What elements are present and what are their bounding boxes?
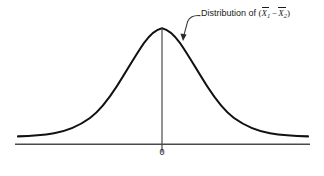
annotation-close-paren: ) xyxy=(287,8,290,18)
normal-distribution-figure: Distribution of (X1−X2) 0 xyxy=(0,0,324,176)
x-bar-1-symbol: X1 xyxy=(262,8,271,21)
x-bar-2-subscript: 2 xyxy=(284,12,287,19)
x-bar-1-subscript: 1 xyxy=(267,12,270,19)
overbar-2 xyxy=(278,7,286,8)
overbar-1 xyxy=(262,7,270,8)
distribution-annotation-label: Distribution of (X1−X2) xyxy=(201,8,290,21)
bell-curve-path xyxy=(18,28,308,136)
annotation-leader-line xyxy=(188,16,200,22)
x-bar-2-symbol: X2 xyxy=(278,8,287,21)
x-axis-origin-label: 0 xyxy=(155,147,169,157)
annotation-arrow-head xyxy=(180,34,186,41)
annotation-arrow-shaft xyxy=(184,22,188,37)
annotation-prefix-text: Distribution of xyxy=(201,8,259,18)
